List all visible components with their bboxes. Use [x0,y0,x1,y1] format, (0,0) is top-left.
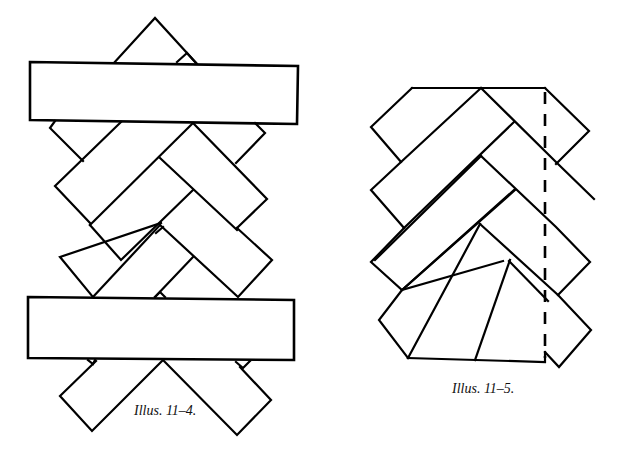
strip-edge [371,190,515,290]
strip-edge [408,224,480,358]
bottom-strips [60,360,271,435]
strip-edge [371,88,412,162]
figure-illus-11-4: Illus. 11–4. [28,18,298,435]
strip-edge [155,257,193,297]
strip-edge [236,123,265,163]
strip-edge [60,360,271,435]
strip-edge [50,121,83,161]
strip-edge [545,88,589,164]
top-apex-inner-edge [177,53,196,63]
top-horizontal-band [30,62,298,124]
figure-illus-11-5: Illus. 11–5. [371,88,594,396]
strip-edge [155,292,165,297]
bottom-horizontal-band [28,297,294,360]
caption-illus-11-5: Illus. 11–5. [451,381,514,396]
caption-illus-11-4: Illus. 11–4. [133,403,196,418]
strip-edge [160,225,272,297]
strip-edge [90,190,193,260]
strip-edge [60,223,161,297]
strip-edge [194,124,267,228]
strip-edge [404,122,514,228]
middle-strips [50,121,272,297]
top-apex-strip [113,18,197,64]
strip-edge [236,361,250,368]
strip-edge [55,122,121,223]
strip-edge [475,260,510,360]
strip-edge [160,158,237,230]
diagram-canvas: Illus. 11–4. Illus. 11–5. [0,0,621,454]
strip-edge [379,261,503,358]
strip-edge [93,225,160,297]
